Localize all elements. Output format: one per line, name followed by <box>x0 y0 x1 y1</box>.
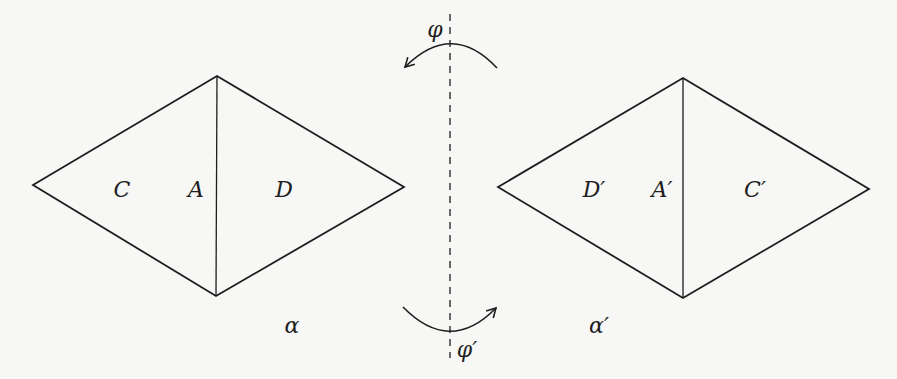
label-a: A <box>188 179 204 201</box>
label-phi: φ <box>427 19 442 41</box>
label-alpha: α <box>285 315 300 337</box>
label-a-prime: A′ <box>652 179 673 201</box>
left-rhombus-diagonal <box>216 76 217 296</box>
label-c: C <box>114 179 131 201</box>
label-d-prime: D′ <box>583 179 606 201</box>
label-phi-prime: φ′ <box>457 339 477 361</box>
right-rhombus <box>498 78 869 298</box>
rotation-arrow-top <box>405 44 497 68</box>
label-c-prime: C′ <box>744 179 766 201</box>
label-alpha-prime: α′ <box>589 315 609 337</box>
left-rhombus <box>33 76 404 296</box>
label-d: D <box>275 179 293 201</box>
